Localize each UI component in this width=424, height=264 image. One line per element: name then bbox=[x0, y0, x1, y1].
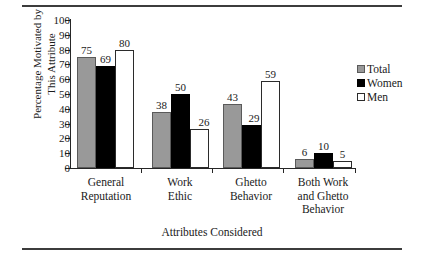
x-axis-title: Attributes Considered bbox=[0, 226, 424, 239]
bar-value-women-work-ethic: 50 bbox=[170, 82, 192, 93]
legend-item-total[interactable]: Total bbox=[357, 62, 402, 76]
bar-value-men-work-ethic: 26 bbox=[193, 117, 215, 128]
y-tick-60: 60 bbox=[36, 79, 70, 80]
bar-value-women-ghetto-behavior: 29 bbox=[243, 113, 265, 124]
legend-label-men: Men bbox=[367, 90, 388, 104]
x-category-label-both-work-and-ghetto-behavior: Both Work and Ghetto Behavior bbox=[277, 176, 369, 217]
bar-women-ghetto-behavior[interactable] bbox=[242, 125, 261, 168]
y-tick-label-40: 40 bbox=[44, 103, 70, 114]
x-tick-separator-1 bbox=[141, 168, 142, 173]
bar-men-work-ethic[interactable] bbox=[190, 129, 209, 168]
bar-total-both-work-and-ghetto-behavior[interactable] bbox=[295, 159, 314, 168]
bar-chart: Percentage Motivated by This Attribute 1… bbox=[0, 0, 424, 264]
y-axis-line bbox=[70, 19, 71, 169]
legend-swatch-men-icon bbox=[357, 93, 365, 101]
x-axis-line bbox=[70, 168, 356, 169]
y-tick-100: 100 bbox=[36, 20, 70, 21]
bar-women-work-ethic[interactable] bbox=[171, 94, 190, 168]
legend-swatch-women-icon bbox=[357, 79, 365, 87]
y-axis-title-line1: Percentage Motivated by bbox=[30, 0, 44, 144]
y-tick-30: 30 bbox=[36, 124, 70, 125]
bar-total-ghetto-behavior[interactable] bbox=[223, 104, 242, 168]
bar-women-general-reputation[interactable] bbox=[96, 66, 115, 168]
bar-value-total-ghetto-behavior: 43 bbox=[222, 92, 244, 103]
y-tick-80: 80 bbox=[36, 50, 70, 51]
legend-label-total: Total bbox=[367, 62, 390, 76]
legend-label-women: Women bbox=[367, 76, 402, 90]
y-tick-label-60: 60 bbox=[44, 74, 70, 85]
y-tick-20: 20 bbox=[36, 138, 70, 139]
y-tick-label-50: 50 bbox=[44, 89, 70, 100]
y-tick-label-20: 20 bbox=[44, 133, 70, 144]
x-tick-separator-2 bbox=[212, 168, 213, 173]
y-tick-label-10: 10 bbox=[44, 148, 70, 159]
x-tick-separator-3 bbox=[283, 168, 284, 173]
y-tick-label-80: 80 bbox=[44, 44, 70, 55]
y-tick-10: 10 bbox=[36, 153, 70, 154]
bar-value-total-work-ethic: 38 bbox=[151, 100, 173, 111]
bar-men-ghetto-behavior[interactable] bbox=[261, 81, 280, 168]
bar-total-work-ethic[interactable] bbox=[152, 112, 171, 168]
x-category-label-both-work-and-ghetto-behavior-line1: Both Work bbox=[277, 176, 369, 190]
y-tick-label-90: 90 bbox=[44, 29, 70, 40]
y-tick-label-70: 70 bbox=[44, 59, 70, 70]
bar-women-both-work-and-ghetto-behavior[interactable] bbox=[314, 153, 333, 168]
legend-item-men[interactable]: Men bbox=[357, 90, 402, 104]
bar-value-women-general-reputation: 69 bbox=[95, 54, 117, 65]
bar-men-both-work-and-ghetto-behavior[interactable] bbox=[333, 161, 352, 168]
y-tick-70: 70 bbox=[36, 64, 70, 65]
y-tick-0: 0 bbox=[36, 168, 70, 169]
x-tick-separator-4 bbox=[355, 168, 356, 173]
legend-swatch-total-icon bbox=[357, 65, 365, 73]
y-tick-label-0: 0 bbox=[44, 163, 70, 174]
y-tick-40: 40 bbox=[36, 109, 70, 110]
bar-value-men-both-work-and-ghetto-behavior: 5 bbox=[332, 149, 354, 160]
bar-value-men-general-reputation: 80 bbox=[114, 38, 136, 49]
bar-total-general-reputation[interactable] bbox=[77, 57, 96, 168]
chart-legend: Total Women Men bbox=[357, 62, 402, 104]
legend-item-women[interactable]: Women bbox=[357, 76, 402, 90]
y-tick-50: 50 bbox=[36, 94, 70, 95]
bar-value-men-ghetto-behavior: 59 bbox=[260, 69, 282, 80]
y-tick-90: 90 bbox=[36, 35, 70, 36]
bar-men-general-reputation[interactable] bbox=[115, 50, 134, 168]
x-category-label-both-work-and-ghetto-behavior-line3: Behavior bbox=[277, 203, 369, 217]
y-tick-label-100: 100 bbox=[44, 15, 70, 26]
x-category-label-both-work-and-ghetto-behavior-line2: and Ghetto bbox=[277, 190, 369, 204]
y-tick-label-30: 30 bbox=[44, 118, 70, 129]
